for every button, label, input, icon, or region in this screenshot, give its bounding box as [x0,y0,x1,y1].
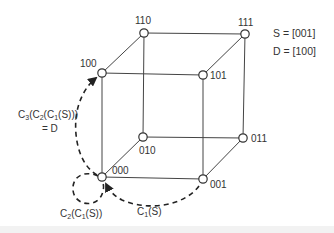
node-110 [140,29,148,37]
edge-000-001 [102,177,203,179]
node-011 [239,134,247,142]
node-100 [98,69,106,77]
node-001 [199,175,207,183]
routing-paths [73,78,199,206]
edge-100-101 [102,73,203,75]
edge-001-011 [203,138,243,179]
edge-011-111 [243,34,245,138]
edge-101-111 [203,34,245,75]
cube-edges [102,33,245,179]
node-label-100: 100 [80,59,97,69]
hypercube-routing-diagram: 000 001 010 011 100 101 110 111 S = [001… [0,0,334,233]
node-101 [199,71,207,79]
node-label-011: 011 [251,134,267,144]
annotation-c1: C1(S) [137,207,161,218]
edge-110-111 [144,33,245,34]
node-000 [98,173,106,181]
annotation-c2: C2(C1(S)) [60,209,102,220]
bottom-border-strip [0,226,334,233]
node-label-001: 001 [210,180,227,190]
annotation-c3-equals-d: = D [42,124,58,134]
destination-label: D = [100] [273,46,316,57]
path-c3 [76,78,97,175]
source-label: S = [001] [273,28,315,39]
node-label-010: 010 [139,146,156,156]
edge-010-110 [143,33,144,137]
path-c1 [106,184,199,206]
node-label-110: 110 [135,16,151,26]
edge-010-011 [143,137,243,138]
node-010 [139,133,147,141]
edge-100-110 [102,33,144,73]
node-111 [241,30,249,38]
node-label-111: 111 [238,18,253,28]
node-label-000: 000 [112,166,129,176]
annotation-c3: C3(C2(C1(S))) [18,110,78,121]
node-label-101: 101 [210,71,227,81]
